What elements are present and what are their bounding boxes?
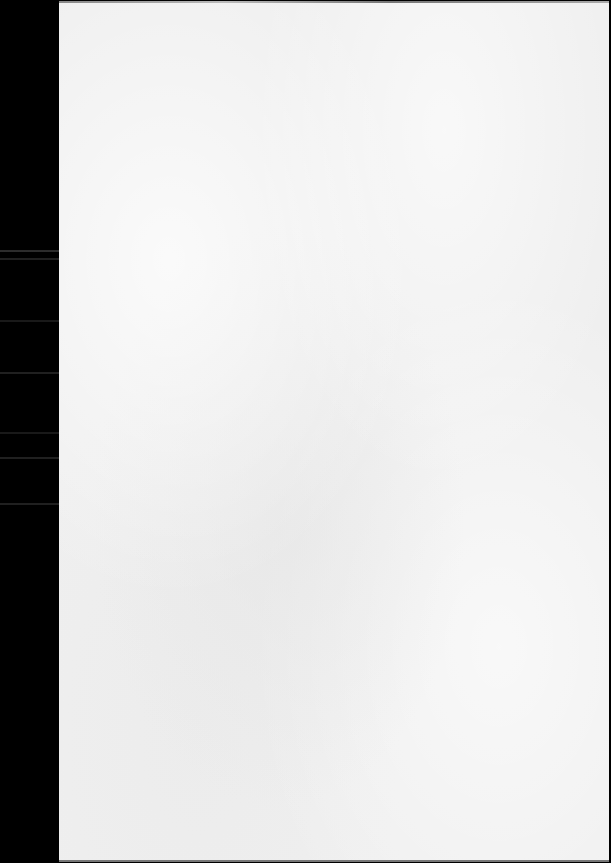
- blank-scanned-page: [59, 1, 609, 862]
- page-bottom-edge: [59, 860, 609, 862]
- scanner-dark-margin: [0, 0, 59, 863]
- page-top-edge: [59, 1, 609, 3]
